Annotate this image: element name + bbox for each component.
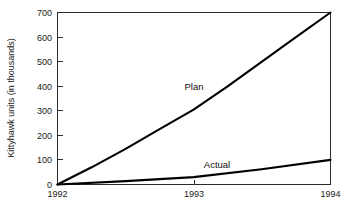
y-tick-label-400: 400: [37, 82, 52, 92]
y-axis-title: Kittyhawk units (in thousands): [6, 38, 16, 158]
y-tick-label-200: 200: [37, 131, 52, 141]
y-tick-label-500: 500: [37, 57, 52, 67]
x-tick-label-1993: 1993: [184, 189, 204, 199]
line-chart: 0 100 200 300 400 500 600 700 1992 1993 …: [0, 0, 347, 212]
y-tick-label-700: 700: [37, 8, 52, 18]
y-tick-label-100: 100: [37, 155, 52, 165]
y-tick-label-300: 300: [37, 106, 52, 116]
chart-background: [0, 0, 347, 212]
chart-screenshot: 0 100 200 300 400 500 600 700 1992 1993 …: [0, 0, 347, 212]
x-tick-label-1994: 1994: [320, 189, 340, 199]
y-tick-label-600: 600: [37, 33, 52, 43]
series-annotation-plan: Plan: [184, 81, 203, 92]
series-annotation-actual: Actual: [204, 159, 230, 170]
x-tick-label-1992: 1992: [47, 189, 67, 199]
